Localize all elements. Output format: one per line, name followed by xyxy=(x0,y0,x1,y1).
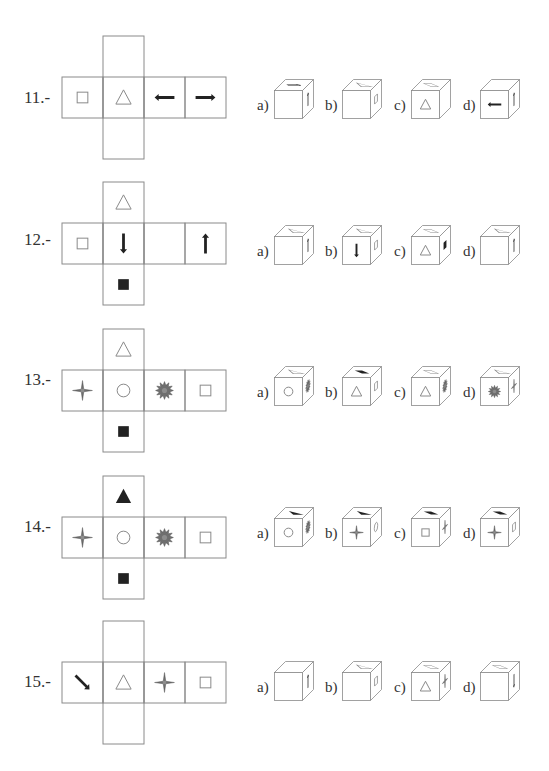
answer-cube-c[interactable] xyxy=(411,366,452,407)
answer-cube-a[interactable] xyxy=(274,507,315,548)
option-label: a) xyxy=(257,679,269,696)
net-column-outline xyxy=(103,621,144,744)
option-label: b) xyxy=(325,679,338,696)
cube-net xyxy=(0,0,260,771)
answer-cube-c[interactable] xyxy=(411,225,452,266)
answer-cube-d[interactable] xyxy=(480,507,521,548)
net-face xyxy=(103,662,144,703)
answer-cube-d[interactable] xyxy=(480,661,521,702)
answer-cube-b[interactable] xyxy=(342,507,383,548)
arrow-diag-down-right-icon xyxy=(73,673,92,692)
answer-cube-a[interactable] xyxy=(274,661,315,702)
option-label: d) xyxy=(463,384,476,401)
option-label: c) xyxy=(394,384,406,401)
triangle-outline-icon xyxy=(116,675,131,689)
option-label: d) xyxy=(463,525,476,542)
option-label: b) xyxy=(325,525,338,542)
answer-cube-c[interactable] xyxy=(411,507,452,548)
option-label: b) xyxy=(325,243,338,260)
option-label: d) xyxy=(463,243,476,260)
option-label: d) xyxy=(463,679,476,696)
answer-cube-b[interactable] xyxy=(342,661,383,702)
answer-cube-b[interactable] xyxy=(342,225,383,266)
answer-cube-a[interactable] xyxy=(274,225,315,266)
option-label: c) xyxy=(394,525,406,542)
option-label: c) xyxy=(394,679,406,696)
net-face xyxy=(185,662,226,703)
answer-cube-a[interactable] xyxy=(274,366,315,407)
answer-cube-d[interactable] xyxy=(480,225,521,266)
square-outline-icon xyxy=(200,677,211,688)
answer-cube-d[interactable] xyxy=(480,366,521,407)
answer-cube-c[interactable] xyxy=(411,661,452,702)
option-label: b) xyxy=(325,384,338,401)
option-label: c) xyxy=(394,243,406,260)
problem-15: 15.- a)b)c) d) xyxy=(0,0,549,140)
answer-cube-b[interactable] xyxy=(342,366,383,407)
four-point-star-icon xyxy=(155,673,175,693)
